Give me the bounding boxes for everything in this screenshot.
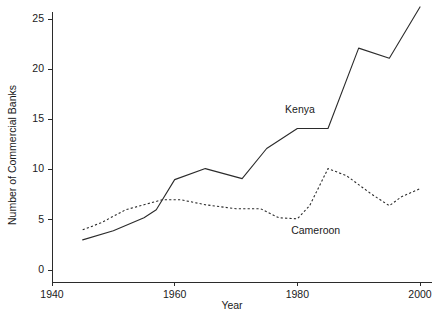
x-tick-label: 1960	[163, 288, 187, 300]
x-tick-label: 1980	[286, 288, 310, 300]
chart-figure: 0510152025 1940196019802000 KenyaCameroo…	[0, 0, 439, 317]
y-tick-label: 5	[38, 213, 44, 225]
y-tick-label: 15	[32, 112, 44, 124]
x-tick-label: 2000	[408, 288, 432, 300]
y-tick-label: 20	[32, 62, 44, 74]
y-axis: 0510152025	[32, 12, 52, 282]
series-label-cameroon: Cameroon	[291, 224, 340, 236]
x-tick-label: 1940	[40, 288, 64, 300]
data-series-group: KenyaCameroon	[83, 7, 420, 240]
y-tick-label: 25	[32, 12, 44, 24]
series-label-kenya: Kenya	[285, 103, 315, 115]
line-chart-canvas: 0510152025 1940196019802000 KenyaCameroo…	[0, 0, 439, 317]
series-line-cameroon	[83, 169, 420, 230]
x-axis: 1940196019802000	[40, 282, 432, 300]
y-tick-label: 0	[38, 263, 44, 275]
y-axis-title: Number of Commercial Banks	[6, 85, 18, 225]
x-axis-title: Year	[221, 299, 243, 311]
series-line-kenya	[83, 7, 420, 240]
y-tick-label: 10	[32, 162, 44, 174]
